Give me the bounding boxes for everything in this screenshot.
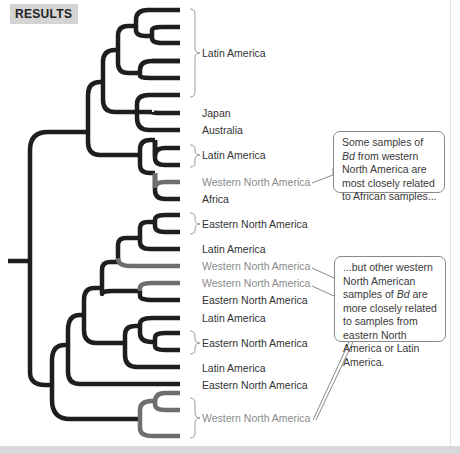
branch-wna-1 bbox=[155, 173, 180, 188]
tip-label-western-north-america: Western North America bbox=[202, 277, 310, 289]
tip-label-eastern-north-america: Eastern North America bbox=[202, 379, 308, 391]
bracket-western-na-4 bbox=[190, 398, 200, 438]
tip-label-eastern-north-america: Eastern North America bbox=[202, 337, 308, 349]
pointer-callout-2a bbox=[312, 268, 336, 278]
pointer-callout-1 bbox=[312, 168, 333, 183]
tip-label-australia: Australia bbox=[202, 124, 243, 136]
callout-other-relationship: ...but other western North American samp… bbox=[334, 256, 446, 342]
tip-label-latin-america: Latin America bbox=[202, 312, 266, 324]
tip-label-western-north-america: Western North America bbox=[202, 412, 310, 424]
bracket-eastern-na-3 bbox=[190, 331, 200, 354]
branch-wna-4c bbox=[155, 401, 180, 410]
tip-label-japan: Japan bbox=[202, 107, 231, 119]
tip-label-latin-america: Latin America bbox=[202, 47, 266, 59]
bracket-latin-america-1 bbox=[190, 9, 200, 97]
tip-label-latin-america: Latin America bbox=[202, 243, 266, 255]
tip-label-eastern-north-america: Eastern North America bbox=[202, 294, 308, 306]
pointer-callout-2b bbox=[312, 286, 336, 296]
tip-label-eastern-north-america: Eastern North America bbox=[202, 218, 308, 230]
branch-wna-2 bbox=[118, 258, 180, 266]
tip-label-western-north-america: Western North America bbox=[202, 176, 310, 188]
branch-wna-3 bbox=[140, 283, 180, 291]
tip-label-latin-america: Latin America bbox=[202, 149, 266, 161]
genus-name: Bd bbox=[397, 288, 410, 300]
bracket-latin-america-2 bbox=[190, 145, 200, 167]
tip-label-latin-america: Latin America bbox=[202, 362, 266, 374]
root-node-upper bbox=[30, 132, 88, 261]
branch-wna-4d bbox=[140, 419, 180, 436]
tip-label-africa: Africa bbox=[202, 193, 229, 205]
bracket-eastern-na-1 bbox=[190, 213, 200, 234]
callout-african-relationship: Some samples of Bd from western North Am… bbox=[333, 131, 445, 193]
branch-wna-4b bbox=[155, 393, 180, 402]
root-node-lower bbox=[30, 261, 52, 385]
tip-label-western-north-america: Western North America bbox=[202, 260, 310, 272]
genus-name: Bd bbox=[342, 150, 355, 162]
